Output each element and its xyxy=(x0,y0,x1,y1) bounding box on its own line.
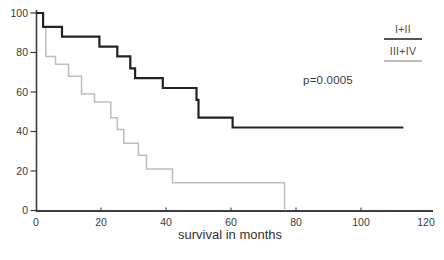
survival-plot-canvas: 020406080100020406080100120 xyxy=(0,0,444,260)
x-axis-title: survival in months xyxy=(148,227,312,242)
survival-curve-III-IV xyxy=(36,13,285,211)
y-tick-label-40: 40 xyxy=(16,125,28,137)
legend-line-stage-1-2 xyxy=(384,38,422,40)
p-value-label: p=0.0005 xyxy=(297,74,359,86)
x-tick-label-0: 0 xyxy=(33,216,39,228)
legend: I+II III+IV xyxy=(382,23,424,67)
y-tick-label-60: 60 xyxy=(16,86,28,98)
x-tick-label-100: 100 xyxy=(352,216,370,228)
x-tick-label-120: 120 xyxy=(417,216,435,228)
legend-line-stage-3-4 xyxy=(384,60,422,62)
legend-label-stage-1-2: I+II xyxy=(382,23,424,36)
y-tick-label-20: 20 xyxy=(16,165,28,177)
y-tick-label-100: 100 xyxy=(10,7,28,19)
y-tick-label-80: 80 xyxy=(16,46,28,58)
x-tick-label-20: 20 xyxy=(95,216,107,228)
legend-label-stage-3-4: III+IV xyxy=(382,45,424,58)
y-tick-label-0: 0 xyxy=(22,204,28,216)
survival-curve-figure: 020406080100020406080100120 I+II III+IV … xyxy=(0,0,444,260)
survival-curve-I-II xyxy=(36,13,403,128)
